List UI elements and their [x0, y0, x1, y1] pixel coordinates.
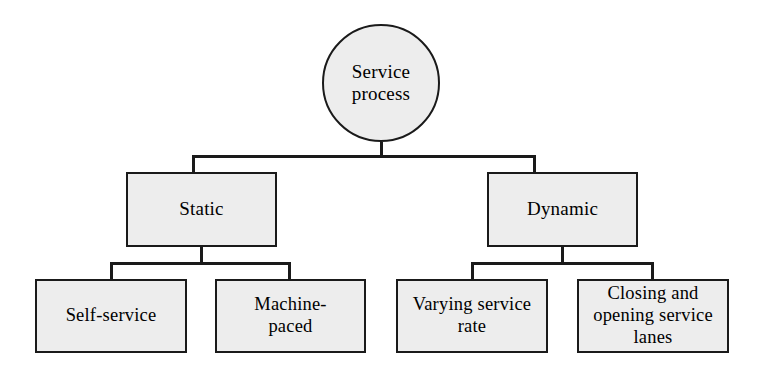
node-self-service: Self-service: [35, 279, 187, 353]
node-service-process: Service process: [322, 24, 440, 142]
node-machine-paced: Machine- paced: [215, 279, 366, 353]
node-self-service-label: Self-service: [66, 305, 157, 327]
node-closing-and-opening-service-lanes: Closing and opening service lanes: [577, 279, 729, 353]
connector-dynamic-bus: [471, 262, 654, 265]
node-dynamic-label: Dynamic: [527, 198, 598, 220]
connector-static-bus: [110, 262, 291, 265]
node-varying-service-rate-label: Varying service rate: [413, 294, 532, 338]
node-closing-and-opening-service-lanes-label: Closing and opening service lanes: [593, 283, 713, 348]
node-static: Static: [126, 172, 277, 247]
service-process-diagram: Service process Static Dynamic Self-serv…: [0, 0, 759, 377]
node-dynamic: Dynamic: [487, 172, 638, 247]
node-varying-service-rate: Varying service rate: [396, 279, 548, 353]
connector-root-bus: [192, 155, 536, 158]
node-static-label: Static: [179, 198, 223, 220]
node-machine-paced-label: Machine- paced: [254, 294, 326, 338]
node-service-process-label: Service process: [352, 61, 410, 106]
